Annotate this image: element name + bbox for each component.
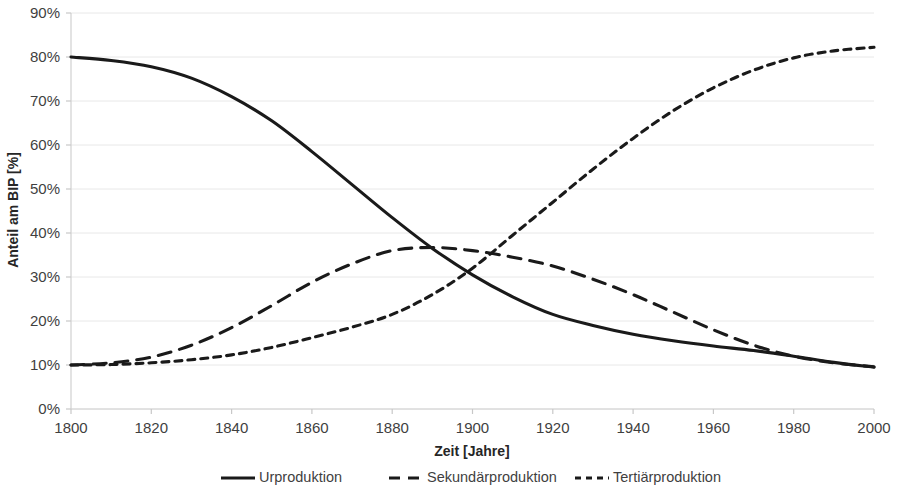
x-tick-label-1900: 1900 [456,419,489,436]
data-series-group [71,47,874,367]
chart-legend: UrproduktionSekundärproduktionTertiärpro… [221,469,721,485]
y-axis-title: Anteil am BIP [%] [5,152,21,268]
series-line-tertiärproduktion [71,47,874,365]
x-tick-label-1960: 1960 [697,419,730,436]
y-tick-label-40: 40% [30,224,60,241]
y-tick-label-10: 10% [30,356,60,373]
y-tick-label-30: 30% [30,268,60,285]
y-axis-tick-labels: 0%10%20%30%40%50%60%70%80%90% [30,4,60,417]
line-chart: 0%10%20%30%40%50%60%70%80%90% 1800182018… [0,0,902,496]
y-tick-label-20: 20% [30,312,60,329]
x-tick-label-1920: 1920 [536,419,569,436]
x-tick-label-1820: 1820 [135,419,168,436]
legend-label-1[interactable]: Sekundärproduktion [427,469,557,485]
x-tick-label-1860: 1860 [295,419,328,436]
y-tick-label-90: 90% [30,4,60,21]
x-tick-label-1940: 1940 [616,419,649,436]
y-tick-label-60: 60% [30,136,60,153]
x-tick-label-1880: 1880 [376,419,409,436]
x-axis-tick-labels: 1800182018401860188019001920194019601980… [54,419,890,436]
legend-label-0[interactable]: Urproduktion [259,469,342,485]
tickmarks-group [66,13,874,414]
y-tick-label-0: 0% [38,400,60,417]
legend-label-2[interactable]: Tertiärproduktion [613,469,721,485]
y-tick-label-50: 50% [30,180,60,197]
x-tick-label-2000: 2000 [857,419,890,436]
x-axis-title: Zeit [Jahre] [434,443,509,459]
x-tick-label-1980: 1980 [777,419,810,436]
x-tick-label-1840: 1840 [215,419,248,436]
x-tick-label-1800: 1800 [54,419,87,436]
series-line-sekundärproduktion [71,248,874,367]
chart-container: 0%10%20%30%40%50%60%70%80%90% 1800182018… [0,0,902,496]
y-tick-label-70: 70% [30,92,60,109]
y-tick-label-80: 80% [30,48,60,65]
